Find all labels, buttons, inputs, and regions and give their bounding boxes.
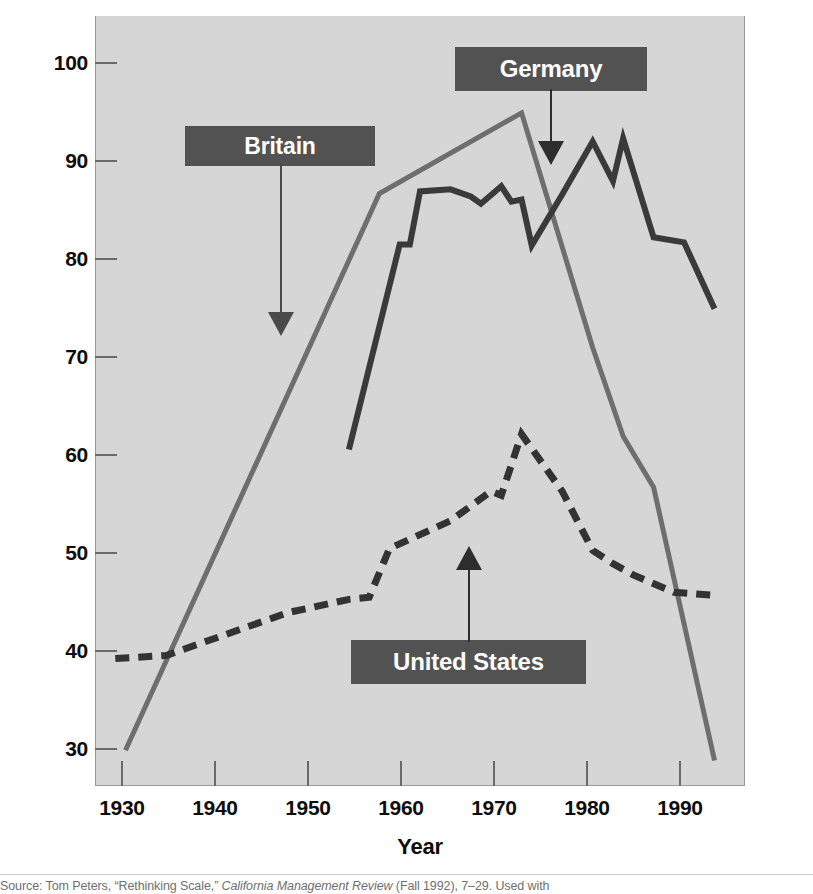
- series-line-germany: [349, 138, 715, 449]
- y-tick-30: 30: [16, 737, 88, 761]
- chart-figure: 100 90 80 70 60 50 40 30 1930 1940 1950 …: [0, 0, 813, 894]
- series-line-united-states: [115, 434, 714, 658]
- y-tick-60: 60: [16, 443, 88, 467]
- y-tick-70: 70: [16, 345, 88, 369]
- x-axis-title: Year: [95, 834, 745, 860]
- source-journal-title: California Management Review: [222, 879, 393, 893]
- y-axis-tick-labels: 100 90 80 70 60 50 40 30: [0, 0, 88, 894]
- callout-box-united-states: United States: [351, 640, 586, 684]
- source-divider: [0, 874, 813, 875]
- x-tick-1960: 1960: [351, 796, 451, 820]
- y-axis-title: Number of employees per establishment (s…: [753, 0, 793, 56]
- source-prefix: Source: Tom Peters, “Rethinking Scale,”: [0, 879, 222, 893]
- callout-box-germany: Germany: [455, 47, 647, 91]
- callout-label-united-states: United States: [393, 648, 544, 676]
- y-tick-50: 50: [16, 541, 88, 565]
- x-tick-1980: 1980: [537, 796, 637, 820]
- source-caption: Source: Tom Peters, “Rethinking Scale,” …: [0, 879, 813, 893]
- y-tick-90: 90: [16, 149, 88, 173]
- x-tick-1940: 1940: [165, 796, 265, 820]
- y-tick-marks: [95, 63, 117, 749]
- y-tick-40: 40: [16, 639, 88, 663]
- x-tick-1950: 1950: [258, 796, 358, 820]
- callout-label-britain: Britain: [244, 133, 315, 160]
- callout-box-britain: Britain: [185, 126, 375, 166]
- x-tick-1990: 1990: [630, 796, 730, 820]
- y-tick-100: 100: [16, 51, 88, 75]
- callout-arrow-germany: [538, 89, 564, 165]
- x-tick-1930: 1930: [72, 796, 172, 820]
- callout-arrow-united-states: [456, 546, 482, 642]
- callout-label-germany: Germany: [500, 55, 603, 83]
- x-tick-marks: [122, 761, 680, 786]
- source-suffix: (Fall 1992), 7–29. Used with: [392, 879, 549, 893]
- callout-arrow-britain: [268, 164, 294, 336]
- y-tick-80: 80: [16, 247, 88, 271]
- x-tick-1970: 1970: [444, 796, 544, 820]
